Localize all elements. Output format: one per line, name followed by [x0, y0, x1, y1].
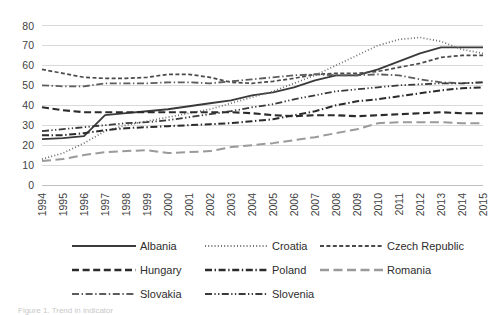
x-tick-label: 2006	[288, 193, 300, 217]
legend-label-croatia: Croatia	[272, 240, 308, 252]
legend-label-poland: Poland	[272, 264, 306, 276]
x-tick-label: 2001	[183, 193, 195, 217]
figure-caption: Figure 1. Trend in indicator	[18, 306, 113, 315]
x-tick-label: 2002	[204, 193, 216, 217]
x-tick-label: 1999	[141, 193, 153, 217]
y-tick-label: 70	[22, 39, 34, 51]
x-tick-label: 2007	[309, 193, 321, 217]
y-tick-label: 20	[22, 139, 34, 151]
x-tick-label: 2003	[225, 193, 237, 217]
y-tick-label: 80	[22, 20, 34, 32]
line-chart-figure: 01020304050607080 1994199519961997199819…	[0, 0, 491, 315]
x-tick-label: 2005	[267, 193, 279, 217]
legend-label-slovakia: Slovakia	[140, 288, 182, 300]
x-tick-label: 1994	[36, 193, 48, 217]
x-tick-label: 2004	[246, 193, 258, 217]
legend-label-slovenia: Slovenia	[272, 288, 315, 300]
legend-label-romania: Romania	[387, 264, 432, 276]
x-tick-label: 2015	[477, 193, 489, 217]
y-tick-label: 50	[22, 79, 34, 91]
y-tick-label: 10	[22, 159, 34, 171]
y-axis-tick-labels: 01020304050607080	[22, 20, 34, 192]
x-tick-label: 1998	[120, 193, 132, 217]
x-tick-label: 2011	[393, 193, 405, 216]
legend-label-albania: Albania	[140, 240, 178, 252]
caption-label: Figure 1. Trend in indicator	[18, 306, 113, 315]
x-tick-label: 1996	[78, 193, 90, 217]
x-tick-label: 2010	[372, 193, 384, 217]
y-tick-label: 0	[28, 179, 34, 191]
chart-container: 01020304050607080 1994199519961997199819…	[0, 0, 491, 315]
x-tick-label: 2000	[162, 193, 174, 217]
y-tick-label: 30	[22, 119, 34, 131]
legend-label-czech-republic: Czech Republic	[387, 240, 465, 252]
x-tick-label: 2013	[435, 193, 447, 217]
x-tick-label: 2012	[414, 193, 426, 217]
x-tick-label: 2009	[351, 193, 363, 217]
x-tick-label: 1997	[99, 193, 111, 217]
y-tick-label: 40	[22, 99, 34, 111]
y-tick-label: 60	[22, 59, 34, 71]
x-tick-label: 1995	[57, 193, 69, 217]
x-tick-label: 2008	[330, 193, 342, 217]
x-tick-label: 2014	[456, 193, 468, 217]
legend-label-hungary: Hungary	[140, 264, 182, 276]
